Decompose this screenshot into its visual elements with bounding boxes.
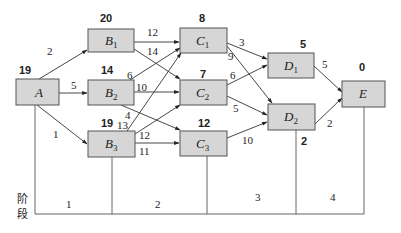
stage-title-line2: 段 [17, 207, 28, 221]
stage-labels: 阶 段 1 2 3 4 [17, 191, 336, 221]
weight-A-B1: 2 [47, 45, 53, 57]
weight-C1-D2: 9 [228, 50, 234, 62]
node-C2: C2 7 [180, 68, 227, 105]
node-E-value: 0 [359, 61, 365, 73]
node-C2-value: 7 [200, 68, 206, 80]
weight-B2-C1: 6 [127, 69, 133, 81]
weight-D1-E: 5 [322, 58, 328, 70]
network-diagram: 2 5 1 12 14 6 10 4 13 12 11 3 9 6 5 10 5… [0, 0, 401, 233]
node-B1: B1 20 [88, 12, 134, 52]
node-B2-value: 14 [101, 64, 114, 76]
stage-label-4: 4 [330, 191, 336, 203]
weight-B3-C3: 11 [139, 145, 150, 157]
weight-B2-C2: 10 [136, 81, 148, 93]
node-B3-value: 19 [101, 117, 113, 129]
node-A: A 19 [16, 64, 59, 105]
node-A-value: 19 [19, 64, 31, 76]
weight-B1-C2: 14 [147, 45, 159, 57]
weight-B3-C2: 12 [139, 129, 150, 141]
stage-title-line1: 阶 [17, 192, 28, 206]
node-D2: D2 2 [268, 104, 315, 147]
weight-C2-D2: 5 [233, 102, 239, 114]
node-B1-value: 20 [100, 12, 112, 24]
weight-B1-C1: 12 [147, 26, 158, 38]
stage-label-3: 3 [255, 191, 261, 203]
node-D1: D1 5 [268, 38, 314, 78]
node-E: E 0 [342, 61, 385, 107]
stage-label-2: 2 [155, 198, 161, 210]
edge-A-B3 [37, 105, 87, 144]
weight-A-B3: 1 [53, 128, 59, 140]
node-C1-value: 8 [199, 12, 205, 24]
weight-C3-D2: 10 [242, 134, 254, 146]
edge-D1-E [314, 66, 342, 92]
node-C3: C3 12 [180, 117, 227, 156]
weight-B3-C1: 13 [117, 119, 129, 131]
weight-A-B2: 5 [71, 79, 77, 91]
weight-C1-D1: 3 [239, 36, 245, 48]
stage-label-1: 1 [66, 198, 72, 210]
node-D1-value: 5 [300, 38, 306, 50]
svg-text:A: A [34, 85, 43, 100]
svg-text:E: E [358, 86, 367, 101]
node-D2-value: 2 [301, 135, 307, 147]
node-C1: C1 8 [180, 12, 227, 53]
weight-D2-E: 2 [327, 117, 333, 129]
node-C3-value: 12 [198, 117, 210, 129]
weight-C2-D1: 6 [230, 69, 236, 81]
